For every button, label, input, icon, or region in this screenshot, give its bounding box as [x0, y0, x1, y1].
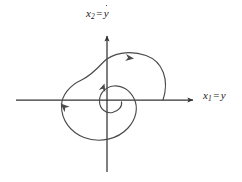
spiral-trajectory-curve: [62, 53, 166, 141]
trajectory-arrow-outer-top: [125, 54, 134, 62]
axes-group: [16, 36, 193, 172]
horizontal-axis-label-equals: =: [212, 89, 221, 101]
horizontal-axis-label-rhs: y: [221, 89, 226, 101]
vertical-axis-label: x2=y: [86, 8, 109, 20]
vertical-axis-label-equals: =: [95, 7, 104, 19]
phase-plane-figure: x2=y x1=y: [0, 0, 242, 182]
trajectory-arrow-lower-left: [58, 101, 70, 113]
vertical-axis-label-rhs: y: [104, 7, 109, 19]
trajectory-group: [58, 53, 165, 141]
horizontal-axis-label: x1=y: [203, 90, 226, 102]
vertical-axis-label-rhs-wrapper: y: [104, 8, 109, 19]
